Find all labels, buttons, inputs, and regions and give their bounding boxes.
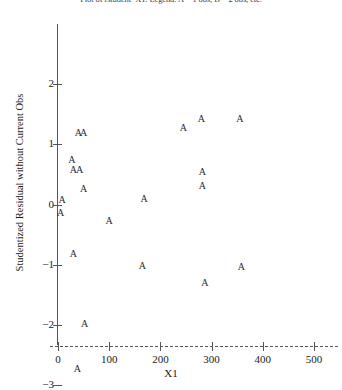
x-tick-label: 300: [190, 353, 234, 365]
x-axis-line: [50, 346, 338, 347]
data-point-marker: A: [199, 167, 206, 177]
y-tick-label: −2: [14, 319, 54, 330]
y-tick-mark: [53, 144, 62, 145]
y-tick-label: −3: [14, 379, 54, 390]
data-point-marker: A: [180, 123, 187, 133]
data-point-marker: A: [76, 165, 83, 175]
data-point-marker: A: [58, 195, 65, 205]
x-axis-title: X1: [0, 367, 342, 379]
data-point-marker: A: [201, 278, 208, 288]
data-point-marker: A: [74, 364, 81, 374]
x-tick-label: 200: [138, 353, 182, 365]
y-axis-line: [57, 24, 58, 345]
x-tick-mark: [58, 342, 59, 351]
data-point-marker: A: [199, 181, 206, 191]
data-point-marker: A: [238, 262, 245, 272]
data-point-marker: A: [80, 184, 87, 194]
data-point-marker: A: [106, 216, 113, 226]
x-tick-mark: [263, 342, 264, 351]
data-point-marker: A: [57, 208, 64, 218]
x-tick-mark: [109, 342, 110, 351]
y-tick-mark: [53, 325, 62, 326]
data-point-marker: A: [80, 128, 87, 138]
data-point-marker: A: [236, 114, 243, 124]
data-point-marker: A: [139, 261, 146, 271]
x-tick-label: 500: [292, 353, 336, 365]
y-tick-mark: [53, 265, 62, 266]
chart-title: Plot of rstudent*X1. Legend: A = 1 obs, …: [0, 0, 342, 4]
x-tick-label: 100: [87, 353, 131, 365]
data-point-marker: A: [81, 319, 88, 329]
data-point-marker: A: [70, 249, 77, 259]
data-point-marker: A: [198, 114, 205, 124]
x-tick-mark: [160, 342, 161, 351]
x-tick-mark: [212, 342, 213, 351]
x-tick-mark: [314, 342, 315, 351]
y-axis-title: Studentized Residual without Current Obs: [14, 83, 25, 283]
y-tick-mark: [53, 385, 62, 386]
x-tick-label: 400: [241, 353, 285, 365]
y-tick-mark: [53, 84, 62, 85]
data-point-marker: A: [140, 194, 147, 204]
